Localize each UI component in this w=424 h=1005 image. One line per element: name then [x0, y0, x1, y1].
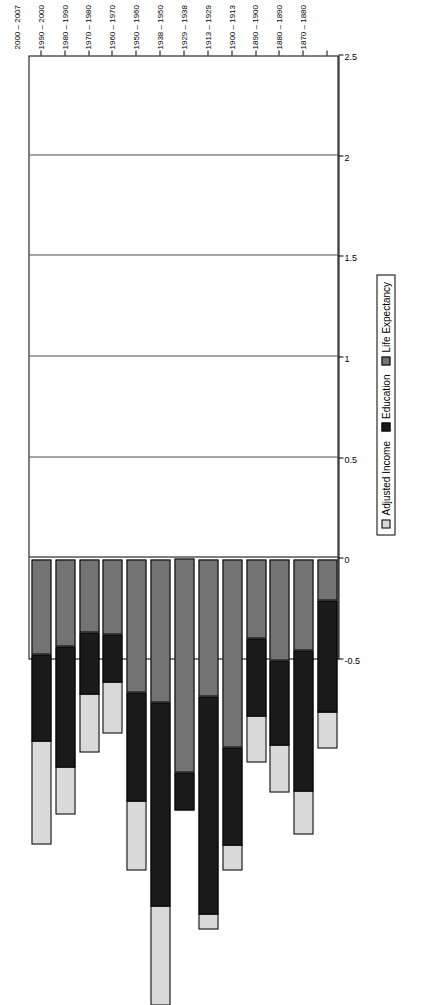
value-tick-label: 0.5	[344, 454, 357, 464]
tick-mark	[302, 50, 303, 55]
legend-swatch	[381, 356, 390, 365]
bar-segment	[198, 559, 218, 696]
bar-stack	[246, 559, 266, 760]
tick-mark	[159, 50, 160, 55]
bar-stack	[31, 559, 51, 843]
bars-layer	[29, 56, 337, 658]
bar-segment	[102, 681, 122, 733]
tick-mark	[231, 50, 232, 55]
value-tick-label: 1	[344, 353, 349, 363]
bar-segment	[293, 790, 313, 834]
bar-stack	[174, 558, 194, 809]
bar-segment	[31, 740, 51, 845]
plot-area	[28, 55, 338, 659]
bar-segment	[269, 660, 289, 745]
bar-stack	[317, 559, 337, 746]
bar-segment	[55, 766, 75, 814]
bar-segment	[174, 558, 194, 771]
tick-mark	[338, 557, 343, 558]
bar-segment	[317, 711, 337, 747]
bar-segment	[293, 650, 313, 791]
bar-segment	[79, 693, 99, 751]
gridline	[29, 154, 337, 155]
bar-segment	[317, 600, 337, 713]
legend-item: Life Expectancy	[380, 281, 391, 365]
bar-stack	[222, 559, 242, 869]
gridline	[29, 254, 337, 255]
bar-stack	[126, 559, 146, 869]
tick-mark	[338, 155, 343, 156]
bar-segment	[198, 696, 218, 913]
tick-mark	[88, 50, 89, 55]
bar-segment	[246, 715, 266, 761]
tick-mark	[183, 50, 184, 55]
category-tick-label: 1900 – 1913	[227, 5, 236, 50]
bar-stack	[79, 559, 99, 750]
bar-stack	[198, 559, 218, 927]
axis-zero-line	[29, 556, 337, 557]
gridline	[29, 355, 337, 356]
bar-segment	[222, 844, 242, 870]
category-tick-label: 1890 – 1900	[250, 5, 259, 50]
legend-swatch	[381, 423, 390, 432]
category-tick-label: 1870 – 1880	[298, 5, 307, 50]
bar-segment	[222, 559, 242, 746]
tick-mark	[278, 50, 279, 55]
bar-segment	[55, 646, 75, 767]
bar-stack	[269, 559, 289, 791]
bar-stack	[150, 559, 170, 1004]
category-tick-label: 1938 – 1950	[155, 5, 164, 50]
bar-segment	[293, 559, 313, 650]
legend-label: Education	[380, 374, 391, 418]
bar-segment	[55, 559, 75, 646]
category-tick-label: 1970 – 1980	[83, 5, 92, 50]
legend-item: Education	[380, 374, 391, 431]
tick-mark	[111, 50, 112, 55]
tick-mark	[338, 255, 343, 256]
category-tick-label: 1960 – 1970	[107, 5, 116, 50]
bar-segment	[126, 800, 146, 870]
category-tick-label: 1990 – 2000	[36, 5, 45, 50]
chart-legend: Adjusted IncomeEducationLife Expectancy	[376, 274, 395, 535]
bar-segment	[102, 559, 122, 633]
category-tick-label: 1880 – 1890	[274, 5, 283, 50]
tick-mark	[64, 50, 65, 55]
value-tick-label: 2.5	[344, 51, 357, 61]
bar-segment	[198, 913, 218, 929]
bar-stack	[102, 559, 122, 732]
category-tick-label: 1950 – 1960	[131, 5, 140, 50]
tick-mark	[207, 50, 208, 55]
bar-segment	[79, 632, 99, 694]
tick-mark	[255, 50, 256, 55]
bar-segment	[79, 559, 99, 631]
bar-stack	[293, 559, 313, 833]
bar-segment	[317, 559, 337, 599]
bar-segment	[246, 559, 266, 638]
tick-mark	[135, 50, 136, 55]
legend-label: Life Expectancy	[380, 281, 391, 352]
bar-segment	[269, 744, 289, 792]
value-tick-label: 0	[344, 554, 349, 564]
bar-segment	[102, 634, 122, 682]
bar-segment	[31, 654, 51, 741]
legend-swatch	[381, 519, 390, 528]
category-tick-label: 2000 – 2007	[12, 5, 21, 50]
tick-mark	[338, 658, 343, 659]
bar-segment	[150, 702, 170, 905]
bar-segment	[174, 772, 194, 810]
legend-item: Adjusted Income	[380, 441, 391, 529]
tick-mark	[40, 50, 41, 55]
bar-segment	[126, 692, 146, 801]
category-tick-label: 1980 – 1990	[60, 5, 69, 50]
bar-segment	[126, 559, 146, 692]
bar-segment	[150, 905, 170, 1005]
category-tick-label: 1929 – 1938	[179, 5, 188, 50]
legend-label: Adjusted Income	[380, 441, 391, 516]
tick-mark	[326, 50, 327, 55]
bar-stack	[55, 559, 75, 813]
value-tick-label: -0.5	[344, 655, 360, 665]
gridline	[29, 456, 337, 457]
bar-segment	[222, 747, 242, 846]
value-tick-label: 2	[344, 152, 349, 162]
